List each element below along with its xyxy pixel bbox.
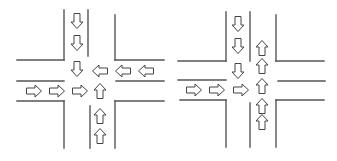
arrow-left-icon bbox=[139, 65, 154, 77]
arrow-up-icon bbox=[94, 129, 106, 144]
arrow-left-icon bbox=[93, 65, 108, 77]
arrow-up-icon bbox=[256, 41, 268, 56]
arrow-right-icon bbox=[210, 84, 225, 96]
right-intersection-diagram bbox=[178, 12, 325, 147]
intersection-diagram-figure bbox=[0, 0, 337, 161]
diagram-canvas bbox=[0, 0, 337, 161]
arrow-up-icon bbox=[256, 115, 268, 130]
arrow-up-icon bbox=[94, 109, 106, 124]
arrow-up-icon bbox=[256, 79, 268, 94]
arrow-down-icon bbox=[71, 62, 83, 77]
arrow-down-icon bbox=[232, 17, 244, 32]
arrow-down-icon bbox=[232, 39, 244, 54]
arrow-right-icon bbox=[234, 84, 249, 96]
arrow-down-icon bbox=[232, 64, 244, 79]
arrow-right-icon bbox=[50, 85, 65, 97]
left-intersection-diagram bbox=[17, 10, 164, 148]
arrow-down-icon bbox=[71, 14, 83, 29]
arrow-left-icon bbox=[116, 65, 131, 77]
arrow-up-icon bbox=[256, 99, 268, 114]
arrow-right-icon bbox=[27, 85, 42, 97]
arrow-up-icon bbox=[256, 59, 268, 74]
arrow-right-icon bbox=[187, 84, 202, 96]
arrow-right-icon bbox=[73, 85, 88, 97]
arrow-down-icon bbox=[71, 36, 83, 51]
arrow-up-icon bbox=[94, 84, 106, 99]
